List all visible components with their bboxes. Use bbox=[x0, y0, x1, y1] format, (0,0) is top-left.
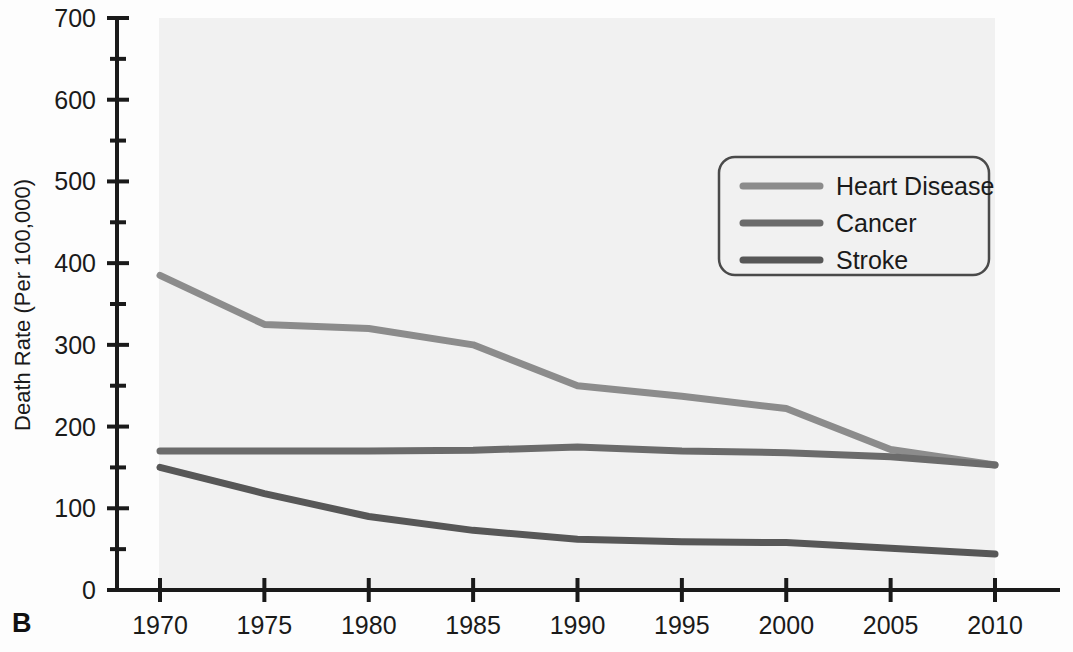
legend-label-cancer: Cancer bbox=[836, 209, 917, 237]
plot-background bbox=[159, 18, 995, 590]
line-chart: 0100200300400500600700 19701975198019851… bbox=[0, 0, 1073, 652]
y-tick-label: 600 bbox=[54, 86, 96, 114]
y-tick-label: 700 bbox=[54, 4, 96, 32]
x-tick-label: 1990 bbox=[550, 611, 606, 639]
y-tick-label: 400 bbox=[54, 249, 96, 277]
y-tick-label: 0 bbox=[82, 576, 96, 604]
x-tick-label: 1995 bbox=[654, 611, 710, 639]
y-tick-label: 300 bbox=[54, 331, 96, 359]
y-tick-label: 200 bbox=[54, 413, 96, 441]
y-axis-tick-labels: 0100200300400500600700 bbox=[54, 4, 96, 604]
x-tick-label: 2005 bbox=[863, 611, 919, 639]
figure-panel-b: 0100200300400500600700 19701975198019851… bbox=[0, 0, 1073, 652]
x-tick-label: 1975 bbox=[237, 611, 293, 639]
legend-label-stroke: Stroke bbox=[836, 246, 908, 274]
legend-label-heart-disease: Heart Disease bbox=[836, 172, 994, 200]
legend: Heart DiseaseCancerStroke bbox=[719, 157, 994, 275]
x-axis-tick-labels: 197019751980198519901995200020052010 bbox=[132, 611, 1023, 639]
x-tick-label: 2000 bbox=[758, 611, 814, 639]
y-tick-label: 100 bbox=[54, 494, 96, 522]
x-tick-label: 1980 bbox=[341, 611, 397, 639]
panel-label: B bbox=[12, 608, 32, 638]
x-tick-label: 1970 bbox=[132, 611, 188, 639]
x-tick-label: 2010 bbox=[967, 611, 1023, 639]
x-tick-label: 1985 bbox=[445, 611, 501, 639]
y-tick-label: 500 bbox=[54, 167, 96, 195]
y-axis-title: Death Rate (Per 100,000) bbox=[10, 179, 35, 431]
